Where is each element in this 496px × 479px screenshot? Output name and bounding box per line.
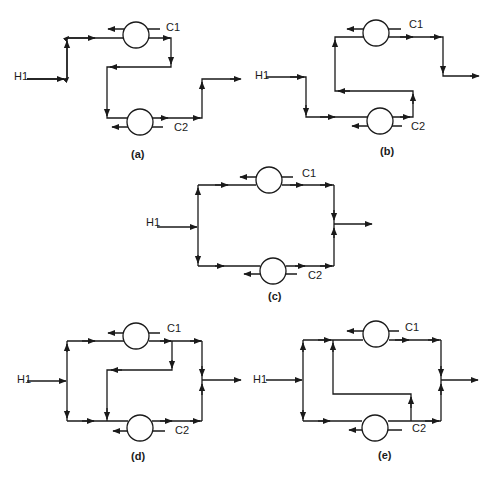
heat-exchanger-c2	[362, 415, 388, 441]
panel-b: H1 C1 C2 (b)	[255, 18, 479, 157]
hot-stream-label: H1	[14, 70, 28, 82]
cold-stream-c2-label: C2	[411, 120, 425, 132]
cold-stream-c2-label: C2	[412, 422, 426, 434]
cold-stream-c1-label: C1	[167, 322, 181, 334]
panel-caption-c: (c)	[268, 290, 282, 302]
heat-exchanger-c2	[127, 415, 153, 441]
hot-stream-label: H1	[255, 69, 269, 81]
hot-stream-line	[27, 38, 124, 79]
heat-exchanger-c1	[123, 323, 149, 349]
panel-d: H1 C1 C2 (d)	[17, 322, 241, 462]
panel-caption-e: (e)	[378, 449, 392, 461]
hot-stream-label: H1	[253, 373, 267, 385]
cold-stream-c1-label: C1	[405, 321, 419, 333]
heat-exchanger-c2	[260, 258, 286, 284]
hot-stream-label: H1	[146, 216, 160, 228]
panel-e: H1 C1 C2 (e)	[253, 321, 478, 461]
cold-stream-c1-label: C1	[302, 167, 316, 179]
cold-stream-c1-label: C1	[409, 18, 423, 30]
hot-stream-line	[266, 77, 368, 117]
cold-stream-c2-label: C2	[308, 269, 322, 281]
hot-stream-label: H1	[17, 373, 31, 385]
heat-exchanger-c1	[123, 22, 149, 48]
panel-caption-b: (b)	[380, 145, 394, 157]
panel-a: H1 C1 C2 (a)	[14, 21, 241, 160]
cold-stream-c2-label: C2	[175, 424, 189, 436]
panel-caption-a: (a)	[131, 148, 145, 160]
cold-stream-c2-label: C2	[174, 121, 188, 133]
heat-exchanger-c2	[127, 109, 153, 135]
panel-c: H1 C1 C2 (c)	[146, 167, 372, 302]
heat-exchanger-c2	[367, 108, 393, 134]
heat-exchanger-c1	[256, 167, 282, 193]
panel-caption-d: (d)	[131, 450, 145, 462]
heat-exchanger-network-figure: H1 C1 C2 (a) H1	[0, 0, 496, 479]
cold-stream-c1-label: C1	[166, 21, 180, 33]
heat-exchanger-c1	[363, 20, 389, 46]
heat-exchanger-c1	[363, 321, 389, 347]
